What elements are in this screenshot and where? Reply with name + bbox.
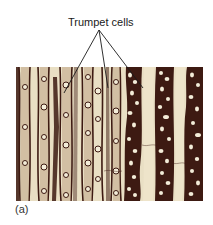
micrograph-image: [16, 67, 203, 201]
panel-label: (a): [15, 203, 28, 215]
callout-label-trumpet-cells: Trumpet cells: [68, 16, 134, 28]
figure-panel: Trumpet cells: [0, 0, 213, 225]
